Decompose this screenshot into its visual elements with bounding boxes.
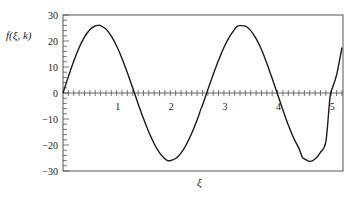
y-tick-label: 30 [48, 10, 58, 21]
x-tick-label: 5 [330, 101, 335, 112]
y-axis-title: f(ξ, k) [6, 29, 32, 42]
y-tick-label: −10 [42, 114, 58, 125]
y-tick-label: 20 [48, 36, 58, 47]
x-axis-tick-labels: 12345 [115, 101, 335, 112]
x-tick-label: 2 [169, 101, 174, 112]
x-tick-label: 1 [115, 101, 120, 112]
chart-canvas: 3020100−10−20−30 12345 f(ξ, k) ξ [0, 0, 355, 197]
x-tick-label: 3 [222, 101, 227, 112]
y-tick-label: −20 [42, 140, 58, 151]
y-tick-label: 10 [48, 62, 58, 73]
y-tick-label: 0 [53, 88, 58, 99]
x-axis-title: ξ [197, 176, 202, 189]
x-axis-zero-line [63, 90, 343, 96]
y-tick-label: −30 [42, 166, 58, 177]
y-axis-tick-labels: 3020100−10−20−30 [42, 10, 58, 177]
